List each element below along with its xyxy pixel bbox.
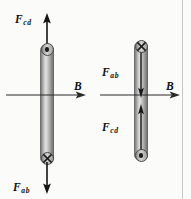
frame-rule-right	[182, 0, 183, 199]
force-ab-label-left-panel: Fab	[13, 178, 30, 195]
left-rod-top-dot-icon	[41, 43, 54, 56]
left-rod	[40, 44, 54, 164]
force-cd-label-left-panel: Fcd	[15, 10, 32, 27]
force-ab-label-right-panel: Fab	[102, 63, 119, 80]
magnetic-field-label-left-panel: B	[74, 77, 82, 93]
right-rod-top-cross-icon	[135, 40, 148, 53]
force-cd-label-right-panel: Fcd	[102, 118, 119, 135]
force-cd-inner-arrow-right-panel	[134, 104, 148, 150]
force-ab-arrow-left-panel	[40, 162, 54, 194]
right-rod-bottom-dot-icon	[135, 149, 148, 162]
force-cd-arrow-left-panel	[40, 13, 54, 45]
physics-figure: Fcd B Fab	[0, 0, 191, 199]
magnetic-field-label-right-panel: B	[166, 77, 174, 93]
